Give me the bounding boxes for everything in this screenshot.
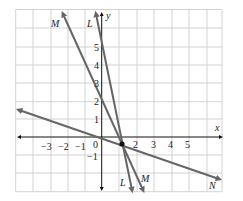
tick-y-5: 5 (94, 42, 99, 53)
tick-x-minus-2: −2 (58, 141, 69, 152)
tick-x-3: 3 (151, 139, 156, 150)
y-axis-label: y (105, 10, 111, 21)
tick-y-4: 4 (94, 60, 99, 71)
tick-y-1: 1 (94, 114, 99, 125)
line-L-label-bottom: L (119, 177, 126, 188)
grid (16, 10, 222, 192)
line-N-label: N (208, 180, 217, 191)
line-M-label-bottom: M (140, 173, 150, 184)
tick-x-5: 5 (185, 139, 190, 150)
x-axis-label: x (214, 122, 220, 133)
tick-x-minus-3: −3 (41, 141, 52, 152)
tick-y-3: 3 (94, 78, 99, 89)
line-M-label-top: M (50, 18, 60, 29)
graph: −3 −2 −1 0 2 3 4 5 5 4 3 2 1 −1 y x L M … (0, 0, 243, 201)
tick-y-2: 2 (94, 96, 99, 107)
tick-x-4: 4 (168, 139, 173, 150)
line-L-label-top: L (86, 18, 93, 29)
tick-x-minus-1: −1 (75, 141, 86, 152)
tick-x-2: 2 (133, 139, 138, 150)
line-labels: y x L M L M N (50, 10, 220, 191)
tick-y-minus-1: −1 (87, 151, 98, 162)
tick-x-0: 0 (93, 139, 98, 150)
intersection-point (119, 141, 124, 146)
